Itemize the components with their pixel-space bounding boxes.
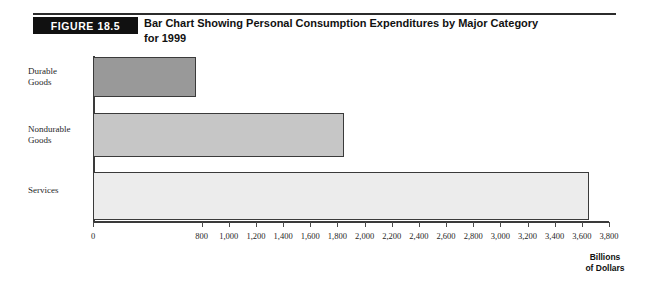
x-axis-tick-label: 3,200 bbox=[518, 231, 537, 241]
bar-durable-goods bbox=[93, 57, 196, 97]
bar-services bbox=[93, 172, 589, 220]
figure-container: FIGURE 18.5 Bar Chart Showing Personal C… bbox=[0, 0, 648, 289]
x-axis-tick-label: 2,600 bbox=[436, 231, 455, 241]
x-axis-tick bbox=[229, 222, 230, 227]
category-label-line: Goods bbox=[28, 77, 90, 88]
x-axis-tick-label: 3,000 bbox=[491, 231, 510, 241]
x-axis-tick bbox=[256, 222, 257, 227]
x-axis-tick-label: 0 bbox=[91, 231, 95, 241]
category-label-line: Goods bbox=[28, 135, 90, 146]
x-axis-tick-label: 3,800 bbox=[599, 231, 618, 241]
x-axis-tick-label: 1,000 bbox=[219, 231, 238, 241]
category-label-line: Services bbox=[28, 185, 90, 196]
x-axis-tick-label: 2,000 bbox=[355, 231, 374, 241]
category-label-nondurable-goods: NondurableGoods bbox=[28, 124, 90, 146]
x-axis-tick-label: 2,800 bbox=[464, 231, 483, 241]
x-axis-tick-label: 2,200 bbox=[382, 231, 401, 241]
bar-chart-plot: DurableGoodsNondurableGoodsServices08001… bbox=[0, 0, 648, 289]
x-axis-tick bbox=[365, 222, 366, 227]
x-axis-tick bbox=[555, 222, 556, 227]
x-axis-tick bbox=[202, 222, 203, 227]
x-axis-tick-label: 800 bbox=[195, 231, 208, 241]
x-axis-caption: Billions of Dollars bbox=[566, 252, 644, 273]
x-axis-tick bbox=[500, 222, 501, 227]
category-label-line: Durable bbox=[28, 66, 90, 77]
x-axis-tick bbox=[392, 222, 393, 227]
x-axis-line bbox=[93, 221, 609, 223]
category-label-line: Nondurable bbox=[28, 124, 90, 135]
x-axis-tick bbox=[582, 222, 583, 227]
category-label-durable-goods: DurableGoods bbox=[28, 66, 90, 88]
x-axis-tick-label: 2,400 bbox=[409, 231, 428, 241]
x-axis-tick bbox=[283, 222, 284, 227]
x-axis-tick bbox=[419, 222, 420, 227]
x-axis-tick bbox=[310, 222, 311, 227]
x-axis-caption-line-2: of Dollars bbox=[566, 263, 644, 274]
bar-nondurable-goods bbox=[93, 113, 344, 157]
x-axis-tick bbox=[609, 222, 610, 227]
x-axis-tick-label: 1,600 bbox=[301, 231, 320, 241]
x-axis-tick-label: 1,400 bbox=[274, 231, 293, 241]
x-axis-tick bbox=[93, 222, 94, 227]
x-axis-tick-label: 3,600 bbox=[572, 231, 591, 241]
category-label-services: Services bbox=[28, 185, 90, 196]
x-axis-tick bbox=[446, 222, 447, 227]
x-axis-tick-label: 3,400 bbox=[545, 231, 564, 241]
x-axis-tick-label: 1,200 bbox=[246, 231, 265, 241]
x-axis-tick bbox=[337, 222, 338, 227]
x-axis-caption-line-1: Billions bbox=[566, 252, 644, 263]
x-axis-tick-label: 1,800 bbox=[328, 231, 347, 241]
x-axis-tick bbox=[528, 222, 529, 227]
x-axis-tick bbox=[473, 222, 474, 227]
